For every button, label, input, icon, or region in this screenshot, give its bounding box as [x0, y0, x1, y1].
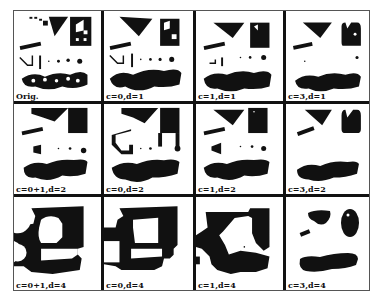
panel-c01-d4: c=0+1,d=4: [14, 197, 104, 290]
panel-image: [14, 197, 101, 290]
panel-image: [286, 11, 369, 101]
panel-image: [104, 104, 193, 194]
panel-caption: c=3,d=1: [288, 92, 327, 101]
panel-image: [14, 11, 101, 101]
panel-image: [104, 197, 193, 290]
panel-caption: Orig.: [16, 92, 40, 101]
panel-caption: c=1,d=4: [198, 281, 237, 290]
panel-image: [14, 104, 101, 194]
panel-image: [196, 104, 283, 194]
panel-c3-d1: c=3,d=1: [286, 11, 369, 104]
panel-image: [104, 11, 193, 101]
panel-caption: c=1,d=2: [198, 185, 237, 194]
panel-image: [286, 197, 369, 290]
panel-caption: c=3,d=2: [288, 185, 327, 194]
panel-caption: c=0+1,d=4: [16, 281, 67, 290]
panel-caption: c=3,d=4: [288, 281, 327, 290]
panel-original: Orig.: [14, 11, 104, 104]
panel-caption: c=0,d=4: [106, 281, 145, 290]
panel-image: [196, 197, 283, 290]
panel-c01-d2: c=0+1,d=2: [14, 104, 104, 197]
panel-caption: c=1,d=1: [198, 92, 237, 101]
panel-c3-d2: c=3,d=2: [286, 104, 369, 197]
panel-c0-d2: c=0,d=2: [104, 104, 196, 197]
panel-c0-d4: c=0,d=4: [104, 197, 196, 290]
panel-image: [196, 11, 283, 101]
panel-c0-d1: c=0,d=1: [104, 11, 196, 104]
figure-frame: Orig. c=0,d=1: [13, 10, 370, 291]
panel-c1-d1: c=1,d=1: [196, 11, 286, 104]
panel-c1-d2: c=1,d=2: [196, 104, 286, 197]
panel-grid: Orig. c=0,d=1: [14, 11, 369, 290]
panel-caption: c=0,d=1: [106, 92, 145, 101]
panel-c3-d4: c=3,d=4: [286, 197, 369, 290]
panel-image: [286, 104, 369, 194]
panel-caption: c=0,d=2: [106, 185, 145, 194]
panel-caption: c=0+1,d=2: [16, 185, 67, 194]
panel-c1-d4: c=1,d=4: [196, 197, 286, 290]
